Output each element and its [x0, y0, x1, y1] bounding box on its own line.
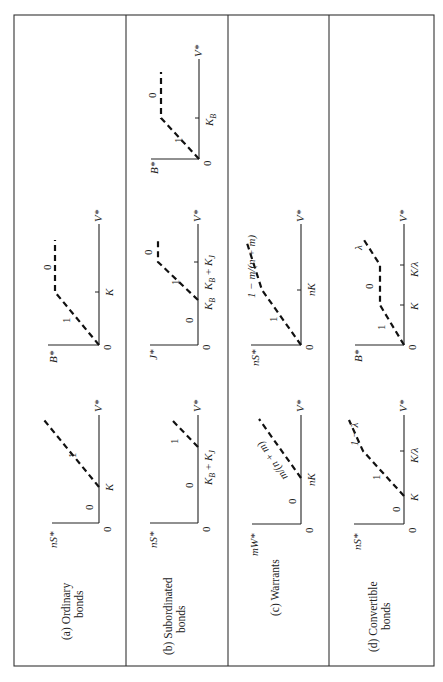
- panel-c-warrant-holders: 0 mW* V* nK 0 m/(n + m): [248, 399, 317, 556]
- slope-label-1: 1: [375, 325, 387, 331]
- slope-label-1: 1: [60, 318, 72, 324]
- axis-label-nS: nS*: [47, 531, 59, 548]
- origin-label: 0: [101, 344, 113, 350]
- panel-a-shareholders: 0 nS* V* K 0 1: [44, 399, 115, 548]
- axis-label-V: V*: [92, 209, 104, 222]
- axis-label-B: B*: [47, 350, 59, 363]
- row-d-label: (d) Convertible bonds: [367, 581, 392, 652]
- slope-label-0: 0: [183, 317, 195, 323]
- row-d-convertible-bonds: (d) Convertible bonds 0 nS* V* K K/λ 0 1…: [348, 209, 420, 652]
- payoff-line: [161, 72, 199, 159]
- slope-label-1-minus-lambda: 1 − λ: [348, 423, 360, 446]
- slope-label-lambda: λ: [352, 245, 364, 251]
- tick-label-KB: KB: [203, 114, 218, 127]
- slope-label-m-over-n-plus-m: m/(n + m): [254, 438, 290, 482]
- row-a-ordinary-bonds: (a) Ordinary bonds 0 nS* V* K 0 1 0 B* V…: [41, 209, 115, 640]
- slope-label-1: 1: [169, 280, 181, 286]
- axis-label-B: B*: [352, 349, 364, 362]
- tick-label-KB-plus-KJ: KB + KJ: [202, 450, 217, 486]
- slope-label-0-flat: 0: [142, 249, 154, 255]
- tick-label-K: K: [408, 302, 420, 311]
- payoff-line: [158, 238, 198, 300]
- tick-label-nK: nK: [305, 283, 317, 297]
- slope-label-1: 1: [66, 453, 78, 459]
- axis-label-B: B*: [148, 161, 160, 174]
- panel-a-creditors: 0 B* V* K 1 0: [41, 209, 115, 363]
- axis-label-V: V*: [191, 399, 203, 412]
- origin-label: 0: [303, 527, 315, 533]
- row-d-label-line2: bonds: [380, 602, 392, 630]
- slope-label-0: 0: [146, 92, 158, 98]
- row-a-label-line2: bonds: [73, 590, 85, 618]
- security-payoff-figure: (a) Ordinary bonds 0 nS* V* K 0 1 0 B* V…: [0, 0, 443, 682]
- row-b-label-line1: (b) Subordinated: [162, 577, 175, 655]
- row-b-label: (b) Subordinated bonds: [162, 577, 187, 655]
- tick-label-K-over-lambda: K/λ: [408, 448, 420, 464]
- panel-b-shareholders: 0 nS* V* KB + KJ 0 1: [147, 399, 217, 548]
- svg-text:KB: KB: [203, 114, 218, 127]
- svg-text:KB + KJ: KB + KJ: [202, 255, 217, 291]
- tick-label-K: K: [103, 483, 115, 492]
- row-c-warrants: (c) Warrants 0 mW* V* nK 0 m/(n + m) 0 n…: [245, 209, 317, 616]
- axis-label-nS: nS*: [249, 349, 261, 366]
- slope-label-1: 1: [370, 475, 382, 481]
- origin-label: 0: [406, 344, 418, 350]
- row-d-label-line1: (d) Convertible: [367, 581, 380, 652]
- axis-label-V: V*: [294, 399, 306, 412]
- tick-label-KB: KB: [202, 298, 217, 311]
- origin-label: 0: [201, 160, 213, 166]
- slope-label-0: 0: [41, 264, 53, 270]
- slope-label-0: 0: [286, 498, 298, 504]
- row-b-label-line2: bonds: [175, 605, 187, 633]
- axis-label-nS: nS*: [147, 531, 159, 548]
- tick-label-KB-plus-KJ: KB + KJ: [202, 255, 217, 291]
- axis-label-V: V*: [92, 399, 104, 412]
- svg-text:KB: KB: [202, 298, 217, 311]
- svg-text:KB + KJ: KB + KJ: [202, 450, 217, 486]
- origin-label: 0: [406, 527, 418, 533]
- panel-b-senior-creditors: 0 B* V* KB 1 0: [146, 44, 218, 174]
- slope-label-0: 0: [390, 506, 402, 512]
- axis-label-V: V*: [294, 209, 306, 222]
- panel-d-shareholders: 0 nS* V* K K/λ 0 1 1 − λ: [348, 399, 420, 550]
- origin-label: 0: [200, 526, 212, 532]
- slope-label-1: 1: [172, 138, 184, 144]
- table-border: [14, 15, 434, 666]
- payoff-line: [55, 240, 99, 345]
- origin-label: 0: [101, 526, 113, 532]
- tick-label-K: K: [408, 493, 420, 502]
- slope-label-0: 0: [83, 504, 95, 510]
- slope-label-0: 0: [183, 482, 195, 488]
- panel-c-shareholders: 0 nS* V* nK 1 1 − m/(n + m): [245, 209, 317, 366]
- row-a-label-line1: (a) Ordinary: [60, 583, 73, 640]
- axis-label-V: V*: [397, 399, 409, 412]
- axis-label-nS: nS*: [351, 533, 363, 550]
- row-c-label-line1: (c) Warrants: [269, 559, 282, 616]
- slope-label-1: 1: [267, 317, 279, 323]
- axis-label-mW: mW*: [248, 533, 260, 556]
- tick-label-K: K: [103, 288, 115, 297]
- axis-label-V: V*: [191, 209, 203, 222]
- axis-label-V: V*: [397, 209, 409, 222]
- tick-label-K-over-lambda: K/λ: [408, 262, 420, 278]
- origin-label: 0: [303, 344, 315, 350]
- panel-b-junior-creditors: 0 J* V* KB KB + KJ 0 1 0: [142, 209, 217, 360]
- row-a-label: (a) Ordinary bonds: [60, 583, 85, 640]
- axis-label-V: V*: [192, 44, 204, 57]
- origin-label: 0: [200, 344, 212, 350]
- row-b-subordinated-bonds: (b) Subordinated bonds 0 nS* V* KB + KJ …: [142, 44, 218, 655]
- tick-label-nK: nK: [305, 473, 317, 487]
- slope-label-1: 1: [168, 439, 180, 445]
- axis-label-J: J*: [147, 349, 159, 360]
- panel-d-bondholders: 0 B* V* K K/λ 1 0 λ: [352, 209, 420, 362]
- row-c-label: (c) Warrants: [269, 559, 282, 616]
- slope-label-1-minus-m-over-n-plus-m: 1 − m/(n + m): [245, 235, 258, 298]
- slope-label-0: 0: [363, 283, 375, 289]
